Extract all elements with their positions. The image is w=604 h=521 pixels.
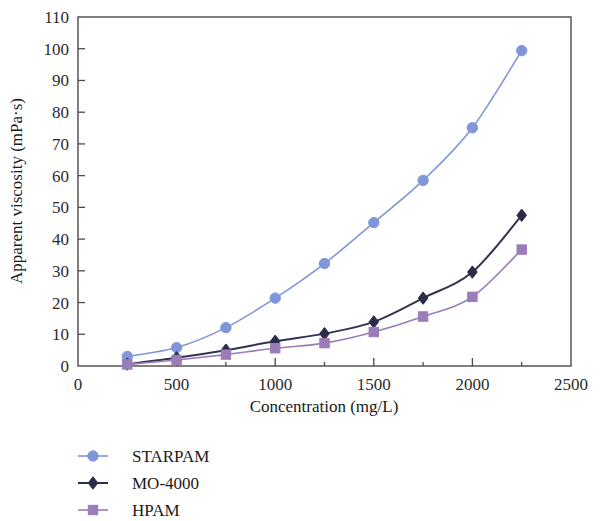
data-point — [221, 322, 231, 332]
x-tick-label: 1500 — [357, 375, 391, 394]
data-point — [517, 245, 526, 254]
data-point — [517, 45, 527, 55]
x-axis-title: Concentration (mg/L) — [250, 397, 399, 416]
data-point — [319, 258, 329, 268]
data-point — [320, 338, 329, 347]
apparent-viscosity-line-chart: 0102030405060708090100110 05001000150020… — [0, 0, 604, 521]
data-point — [270, 293, 280, 303]
y-axis-title: Apparent viscosity (mPa·s) — [7, 98, 26, 284]
y-tick-label: 110 — [44, 8, 69, 27]
data-point — [123, 360, 132, 369]
data-point — [468, 292, 477, 301]
x-tick-label: 2500 — [554, 375, 588, 394]
data-point — [369, 217, 379, 227]
legend-label: STARPAM — [132, 447, 209, 466]
y-tick-label: 0 — [61, 357, 70, 376]
chart-background — [0, 0, 604, 521]
x-tick-label: 500 — [164, 375, 190, 394]
data-point — [271, 344, 280, 353]
x-tick-label: 2000 — [455, 375, 489, 394]
data-point — [418, 312, 427, 321]
data-point — [418, 175, 428, 185]
chart-figure: 0102030405060708090100110 05001000150020… — [0, 0, 604, 521]
legend-label: MO-4000 — [132, 474, 199, 493]
legend-marker-circle-icon — [88, 451, 98, 461]
data-point — [221, 350, 230, 359]
data-point — [369, 327, 378, 336]
y-tick-label: 70 — [52, 135, 69, 154]
y-tick-label: 30 — [52, 262, 69, 281]
y-tick-label: 100 — [44, 40, 70, 59]
y-tick-label: 10 — [52, 325, 69, 344]
legend-label: HPAM — [132, 501, 180, 520]
x-tick-label: 1000 — [258, 375, 292, 394]
y-tick-label: 90 — [52, 71, 69, 90]
y-tick-label: 80 — [52, 103, 69, 122]
y-tick-label: 20 — [52, 294, 69, 313]
y-tick-label: 50 — [52, 198, 69, 217]
legend-marker-square-icon — [88, 505, 97, 514]
x-tick-label: 0 — [74, 375, 83, 394]
data-point — [467, 123, 477, 133]
y-tick-label: 60 — [52, 167, 69, 186]
data-point — [172, 355, 181, 364]
y-tick-label: 40 — [52, 230, 69, 249]
